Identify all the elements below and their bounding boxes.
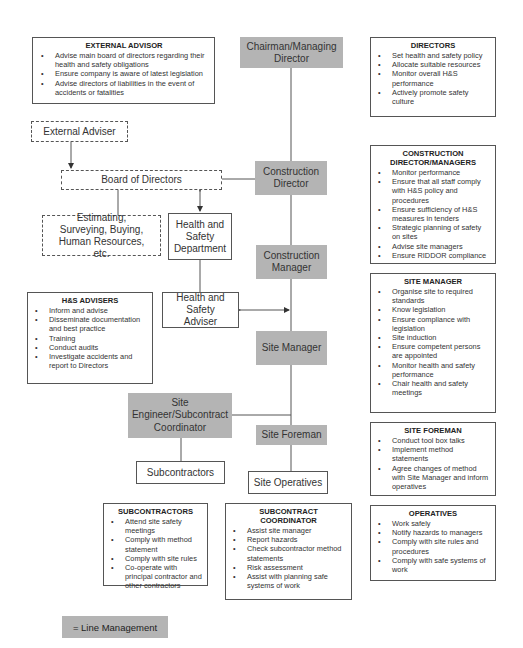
node-label: Site Engineer/Subcontract Coordinator — [130, 397, 230, 435]
external-adviser-node: External Adviser — [31, 121, 128, 142]
info-item: Advise main board of directors regarding… — [39, 51, 209, 69]
chairman-node: Chairman/Managing Director — [240, 37, 343, 68]
info-item: Advise site managers — [376, 242, 490, 251]
node-label: Site Manager — [262, 342, 321, 354]
info-item: Ensure compliance with legislation — [376, 315, 490, 333]
info-item: Comply with site rules — [109, 554, 202, 563]
node-label: Subcontractors — [147, 467, 214, 479]
info-item: Implement method statements — [376, 445, 490, 463]
node-label: Chairman/Managing Director — [246, 41, 337, 65]
info-item: Conduct tool box talks — [376, 436, 490, 445]
line-management-legend: = Line Management — [62, 616, 168, 638]
info-item: Co-operate with principal contractor and… — [109, 563, 202, 591]
operatives-info-box: OPERATIVES Work safely Notify hazards to… — [370, 505, 496, 581]
info-item: Allocate suitable resources — [376, 60, 490, 69]
info-item: Site induction — [376, 333, 490, 342]
board-of-directors-node: Board of Directors — [61, 170, 222, 190]
info-item: Disseminate documentation and best pract… — [33, 315, 147, 333]
info-box-title: DIRECTORS — [376, 41, 490, 50]
info-item: Comply with site rules and procedures — [376, 537, 490, 555]
info-item: Assist site manager — [231, 526, 346, 535]
subcontractors-info-box: SUBCONTRACTORS Attend site safety meetin… — [103, 503, 208, 586]
info-item: Monitor performance — [376, 168, 490, 177]
info-item: Check subcontractor method statements — [231, 544, 346, 562]
subcontract-coordinator-info-box: SUBCONTRACT COORDINATOR Assist site mana… — [225, 503, 352, 600]
info-box-title: CONSTRUCTION DIRECTOR/MANAGERS — [376, 149, 490, 167]
info-item: Comply with safe systems of work — [376, 556, 490, 574]
node-label: Construction Director — [263, 166, 319, 190]
site-manager-info-box: SITE MANAGER Organise site to required s… — [370, 273, 496, 413]
info-item: Ensure sufficiency of H&S measures in te… — [376, 205, 490, 223]
info-item: Report hazards — [231, 535, 346, 544]
node-label: Health and Safety Adviser — [171, 292, 230, 328]
info-item: Notify hazards to managers — [376, 528, 490, 537]
subcontractors-node: Subcontractors — [136, 461, 225, 484]
node-label: Construction Manager — [263, 250, 319, 274]
node-label: Site Operatives — [254, 477, 322, 489]
info-item: Ensure company is aware of latest legisl… — [39, 69, 209, 78]
hs-advisers-info-box: H&S ADVISERS Inform and advise Dissemina… — [27, 292, 153, 384]
estimating-node: Estimating, Surveying, Buying, Human Res… — [42, 215, 161, 256]
info-item: Organise site to required standards — [376, 287, 490, 305]
info-box-title: SITE MANAGER — [376, 277, 490, 286]
info-box-title: H&S ADVISERS — [33, 296, 147, 305]
info-item: Assist with planning safe systems of wor… — [231, 572, 346, 590]
info-item: Training — [33, 334, 147, 343]
info-box-title: OPERATIVES — [376, 509, 490, 518]
info-item: Risk assessment — [231, 563, 346, 572]
info-box-title: SUBCONTRACTORS — [109, 507, 202, 516]
site-manager-node: Site Manager — [256, 331, 327, 365]
hs-adviser-node: Health and Safety Adviser — [162, 292, 239, 328]
legend-label: = Line Management — [73, 622, 157, 633]
site-operatives-node: Site Operatives — [248, 471, 328, 494]
external-advisor-info-box: EXTERNAL ADVISOR Advise main board of di… — [32, 37, 215, 104]
info-item: Attend site safety meetings — [109, 517, 202, 535]
info-box-title: SITE FOREMAN — [376, 426, 490, 435]
node-label: Site Foreman — [261, 429, 321, 441]
info-item: Comply with method statement — [109, 535, 202, 553]
directors-info-box: DIRECTORS Set health and safety policy A… — [370, 37, 496, 117]
info-item: Strategic planning of safety on sites — [376, 223, 490, 241]
info-item: Monitor health and safety performance — [376, 361, 490, 379]
info-item: Inform and advise — [33, 306, 147, 315]
site-engineer-node: Site Engineer/Subcontract Coordinator — [128, 393, 232, 438]
info-box-title: SUBCONTRACT COORDINATOR — [231, 507, 346, 525]
site-foreman-node: Site Foreman — [256, 425, 327, 445]
site-foreman-info-box: SITE FOREMAN Conduct tool box talks Impl… — [370, 422, 496, 496]
construction-manager-node: Construction Manager — [256, 245, 327, 279]
info-item: Agree changes of method with Site Manage… — [376, 464, 490, 492]
hs-department-node: Health and Safety Department — [168, 213, 232, 260]
info-item: Chair health and safety meetings — [376, 379, 490, 397]
node-label: Board of Directors — [101, 174, 182, 186]
info-item: Know legislation — [376, 305, 490, 314]
info-item: Advise directors of liabilities in the e… — [39, 79, 209, 97]
info-item: Ensure that all staff comply with H&S po… — [376, 177, 490, 205]
info-box-title: EXTERNAL ADVISOR — [39, 41, 209, 50]
info-item: Actively promote safety culture — [376, 88, 490, 106]
node-label: External Adviser — [43, 126, 115, 138]
info-item: Investigate accidents and report to Dire… — [33, 352, 147, 370]
node-label: Health and Safety Department — [172, 219, 228, 255]
info-item: Monitor overall H&S performance — [376, 69, 490, 87]
info-item: Work safely — [376, 519, 490, 528]
construction-directors-info-box: CONSTRUCTION DIRECTOR/MANAGERS Monitor p… — [370, 145, 496, 264]
info-item: Ensure competent persons are appointed — [376, 342, 490, 360]
node-label: Estimating, Surveying, Buying, Human Res… — [53, 212, 150, 260]
info-item: Ensure RIDDOR compliance — [376, 251, 490, 260]
info-item: Set health and safety policy — [376, 51, 490, 60]
construction-director-node: Construction Director — [255, 161, 327, 195]
info-item: Conduct audits — [33, 343, 147, 352]
